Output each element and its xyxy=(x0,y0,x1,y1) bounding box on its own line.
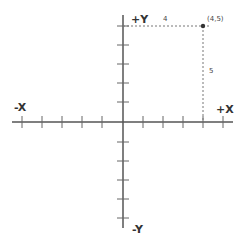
coordinate-plane xyxy=(0,0,243,243)
point-marker xyxy=(201,24,205,28)
y-negative-label: -Y xyxy=(132,224,143,235)
y-positive-label: +Y xyxy=(131,14,148,25)
x-negative-label: -X xyxy=(14,102,26,113)
vertical-distance-label: 5 xyxy=(209,68,213,75)
point-label: (4,5) xyxy=(207,16,224,23)
x-positive-label: +X xyxy=(216,104,234,115)
horizontal-distance-label: 4 xyxy=(163,16,167,23)
